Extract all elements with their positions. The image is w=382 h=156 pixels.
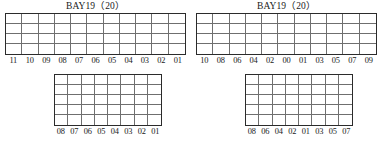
bay-cell[interactable] bbox=[135, 75, 148, 85]
bay-cell[interactable] bbox=[104, 34, 120, 44]
bay-cell[interactable] bbox=[68, 115, 81, 125]
bay-cell[interactable] bbox=[312, 115, 325, 125]
bay-cell[interactable] bbox=[286, 115, 299, 125]
bay-cell[interactable] bbox=[55, 34, 71, 44]
bay-cell[interactable] bbox=[299, 85, 312, 95]
bay-cell[interactable] bbox=[286, 75, 299, 85]
bay-cell[interactable] bbox=[121, 85, 134, 95]
bay-cell[interactable] bbox=[108, 115, 121, 125]
bay-cell[interactable] bbox=[311, 44, 327, 54]
bay-cell[interactable] bbox=[148, 115, 161, 125]
bay-cell[interactable] bbox=[311, 14, 327, 24]
bay-cell[interactable] bbox=[299, 95, 312, 105]
bay-cell[interactable] bbox=[169, 14, 185, 24]
bay-cell[interactable] bbox=[259, 105, 272, 115]
bay-cell[interactable] bbox=[55, 24, 71, 34]
bay-cell[interactable] bbox=[262, 44, 278, 54]
bay-cell[interactable] bbox=[39, 14, 55, 24]
bay-cell[interactable] bbox=[152, 24, 168, 34]
bay-cell[interactable] bbox=[135, 115, 148, 125]
bay-cell[interactable] bbox=[95, 115, 108, 125]
bay-cell[interactable] bbox=[68, 85, 81, 95]
bay-cell[interactable] bbox=[55, 105, 68, 115]
bay-cell[interactable] bbox=[327, 34, 343, 44]
bay-cell[interactable] bbox=[121, 75, 134, 85]
bay-cell[interactable] bbox=[213, 44, 229, 54]
bay-cell[interactable] bbox=[273, 105, 286, 115]
bay-cell[interactable] bbox=[135, 105, 148, 115]
bay-cell[interactable] bbox=[259, 85, 272, 95]
bay-cell[interactable] bbox=[339, 75, 352, 85]
bay-cell[interactable] bbox=[55, 115, 68, 125]
bay-cell[interactable] bbox=[326, 105, 339, 115]
bay-cell[interactable] bbox=[230, 24, 246, 34]
bay-cell[interactable] bbox=[95, 75, 108, 85]
bay-cell[interactable] bbox=[213, 24, 229, 34]
bay-cell[interactable] bbox=[82, 115, 95, 125]
bay-cell[interactable] bbox=[230, 14, 246, 24]
bay-cell[interactable] bbox=[82, 95, 95, 105]
bay-cell[interactable] bbox=[104, 44, 120, 54]
bay-cell[interactable] bbox=[343, 34, 359, 44]
bay-cell[interactable] bbox=[246, 44, 262, 54]
bay-cell[interactable] bbox=[278, 34, 294, 44]
bay-cell[interactable] bbox=[326, 85, 339, 95]
bay-cell[interactable] bbox=[152, 44, 168, 54]
bay-cell[interactable] bbox=[104, 24, 120, 34]
bay-cell[interactable] bbox=[136, 44, 152, 54]
bay-cell[interactable] bbox=[360, 44, 376, 54]
bay-cell[interactable] bbox=[71, 44, 87, 54]
bay-cell[interactable] bbox=[121, 95, 134, 105]
bay-cell[interactable] bbox=[326, 95, 339, 105]
bay-cell[interactable] bbox=[22, 14, 38, 24]
bay-cell[interactable] bbox=[152, 34, 168, 44]
bay-cell[interactable] bbox=[108, 85, 121, 95]
bay-cell[interactable] bbox=[71, 24, 87, 34]
bay-cell[interactable] bbox=[278, 44, 294, 54]
bay-cell[interactable] bbox=[55, 75, 68, 85]
bay-cell[interactable] bbox=[343, 44, 359, 54]
bay-cell[interactable] bbox=[246, 14, 262, 24]
bay-cell[interactable] bbox=[55, 44, 71, 54]
bay-cell[interactable] bbox=[71, 34, 87, 44]
bay-cell[interactable] bbox=[6, 24, 22, 34]
bay-cell[interactable] bbox=[104, 14, 120, 24]
bay-cell[interactable] bbox=[197, 44, 213, 54]
bay-cell[interactable] bbox=[295, 24, 311, 34]
bay-cell[interactable] bbox=[39, 34, 55, 44]
bay-cell[interactable] bbox=[121, 105, 134, 115]
bay-cell[interactable] bbox=[82, 105, 95, 115]
bay-cell[interactable] bbox=[278, 24, 294, 34]
bay-cell[interactable] bbox=[326, 75, 339, 85]
bay-cell[interactable] bbox=[148, 105, 161, 115]
bay-cell[interactable] bbox=[152, 14, 168, 24]
bay-cell[interactable] bbox=[108, 105, 121, 115]
bay-cell[interactable] bbox=[295, 44, 311, 54]
bay-cell[interactable] bbox=[246, 24, 262, 34]
bay-cell[interactable] bbox=[120, 24, 136, 34]
bay-cell[interactable] bbox=[148, 85, 161, 95]
bay-cell[interactable] bbox=[259, 115, 272, 125]
bay-cell[interactable] bbox=[343, 14, 359, 24]
bay-cell[interactable] bbox=[262, 34, 278, 44]
bay-cell[interactable] bbox=[273, 85, 286, 95]
bay-cell[interactable] bbox=[22, 34, 38, 44]
bay-cell[interactable] bbox=[39, 44, 55, 54]
bay-cell[interactable] bbox=[246, 75, 259, 85]
bay-cell[interactable] bbox=[339, 115, 352, 125]
bay-cell[interactable] bbox=[327, 14, 343, 24]
bay-cell[interactable] bbox=[311, 34, 327, 44]
bay-cell[interactable] bbox=[339, 95, 352, 105]
bay-cell[interactable] bbox=[108, 75, 121, 85]
bay-cell[interactable] bbox=[360, 14, 376, 24]
bay-cell[interactable] bbox=[135, 85, 148, 95]
bay-cell[interactable] bbox=[87, 14, 103, 24]
bay-cell[interactable] bbox=[312, 75, 325, 85]
bay-cell[interactable] bbox=[273, 95, 286, 105]
bay-cell[interactable] bbox=[135, 95, 148, 105]
bay-cell[interactable] bbox=[286, 95, 299, 105]
bay-cell[interactable] bbox=[71, 14, 87, 24]
bay-cell[interactable] bbox=[87, 24, 103, 34]
bay-cell[interactable] bbox=[262, 24, 278, 34]
bay-cell[interactable] bbox=[299, 105, 312, 115]
